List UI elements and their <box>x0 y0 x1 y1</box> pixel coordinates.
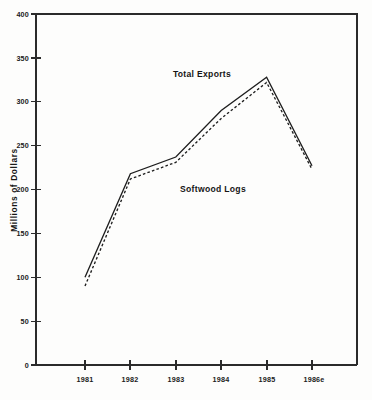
y-tick-label: 350 <box>16 54 29 63</box>
y-axis-title: Millions of Dollars <box>9 148 19 232</box>
chart-figure: 400 350 300 250 200 150 100 50 0 1981 19… <box>0 0 372 400</box>
y-tick-label: 300 <box>16 97 29 106</box>
x-tick-label: 1984 <box>213 375 230 384</box>
y-tick-label: 400 <box>16 10 29 19</box>
y-tick-label: 50 <box>21 317 29 326</box>
series-line-total-exports <box>85 77 312 277</box>
annotation-total-exports: Total Exports <box>173 69 231 79</box>
x-tick-label: 1983 <box>168 375 185 384</box>
annotation-softwood-logs: Softwood Logs <box>180 184 246 194</box>
y-tick-label: 100 <box>16 273 29 282</box>
x-tick-label: 1981 <box>77 375 94 384</box>
y-tick-label: 0 <box>25 361 29 370</box>
x-tick-label: 1982 <box>122 375 139 384</box>
x-tick-label: 1986e <box>304 375 325 384</box>
x-tick-label: 1985 <box>259 375 276 384</box>
chart-canvas: 400 350 300 250 200 150 100 50 0 1981 19… <box>0 0 372 400</box>
x-axis-tick-labels: 1981 1982 1983 1984 1985 1986e <box>77 375 325 384</box>
